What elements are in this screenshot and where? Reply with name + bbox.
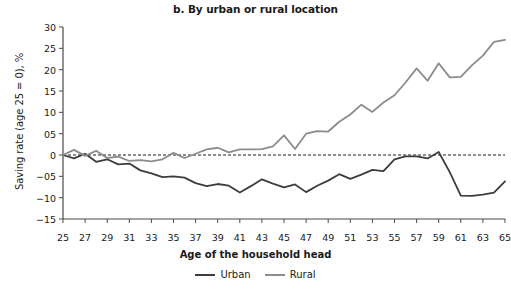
x-tick-label: 59 (429, 232, 449, 243)
legend-item-rural[interactable]: Rural (265, 270, 316, 280)
x-tick-label: 45 (274, 232, 294, 243)
legend-swatch-urban-icon (195, 274, 215, 276)
x-tick-label: 55 (385, 232, 405, 243)
x-axis-label: Age of the household head (0, 249, 511, 260)
x-tick-label: 33 (141, 232, 161, 243)
x-tick-label: 35 (164, 232, 184, 243)
x-tick-label: 63 (473, 232, 493, 243)
x-tick-label: 25 (53, 232, 73, 243)
x-tick-label: 29 (97, 232, 117, 243)
x-tick-label: 37 (186, 232, 206, 243)
x-tick-label: 53 (362, 232, 382, 243)
chart-legend: UrbanRural (0, 270, 511, 280)
x-tick-label: 57 (407, 232, 427, 243)
legend-swatch-rural-icon (265, 274, 285, 276)
x-tick-label: 43 (252, 232, 272, 243)
x-tick-label: 39 (208, 232, 228, 243)
chart-figure: b. By urban or rural location Saving rat… (0, 0, 511, 295)
x-tick-label: 31 (119, 232, 139, 243)
x-tick-label: 27 (75, 232, 95, 243)
x-tick-label: 51 (340, 232, 360, 243)
legend-item-urban[interactable]: Urban (195, 270, 250, 280)
legend-label: Rural (290, 270, 316, 280)
x-tick-label: 47 (296, 232, 316, 243)
legend-label: Urban (220, 270, 250, 280)
x-tick-label: 65 (495, 232, 511, 243)
x-tick-label: 41 (230, 232, 250, 243)
x-tick-label: 61 (451, 232, 471, 243)
x-tick-label: 49 (318, 232, 338, 243)
